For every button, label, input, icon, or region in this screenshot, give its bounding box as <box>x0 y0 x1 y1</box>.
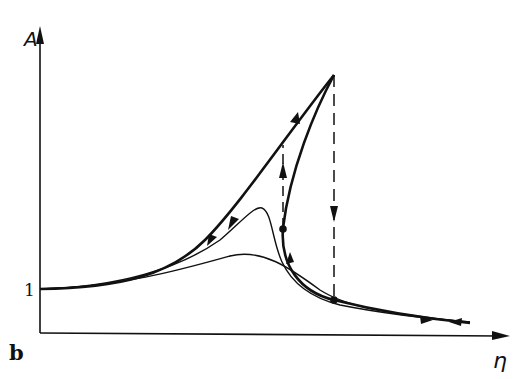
jump-down-point-icon <box>330 296 338 304</box>
jump-up-point-icon <box>279 225 287 233</box>
resonance-diagram: A η 1 b <box>0 0 522 379</box>
flow-arrow-up-branch-icon <box>290 112 300 124</box>
linear-resonance-curve <box>40 254 470 322</box>
intermediate-resonance-curve <box>40 208 470 322</box>
x-axis-arrow-icon <box>492 331 510 340</box>
nonlinear-lower-tail <box>334 300 470 323</box>
axes <box>36 26 510 340</box>
flow-arrow-tail-left-icon <box>449 318 462 326</box>
x-axis-label: η <box>493 348 507 373</box>
panel-label: b <box>9 340 24 365</box>
y-tick-label-1: 1 <box>24 280 35 300</box>
y-axis-label: A <box>22 27 38 51</box>
jump-up-arrow-icon <box>279 162 287 178</box>
jump-down-arrow-icon <box>330 206 338 222</box>
x-axis <box>40 333 500 336</box>
